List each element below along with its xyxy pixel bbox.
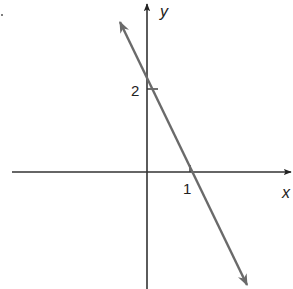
y-tick-label-2: 2 [131, 82, 139, 99]
y-axis-label: y [159, 3, 169, 20]
x-tick-label-1: 1 [183, 180, 191, 197]
coordinate-plane: 2 1 y x [0, 0, 293, 289]
corner-dot [1, 14, 3, 16]
x-axis-label: x [281, 184, 291, 201]
graph-line [120, 22, 247, 285]
